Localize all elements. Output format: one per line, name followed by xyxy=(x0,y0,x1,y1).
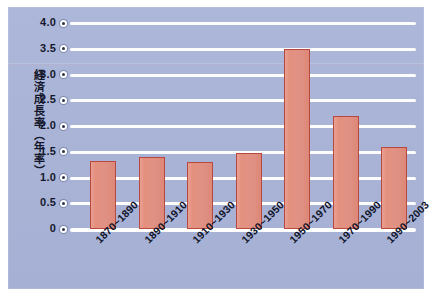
y-axis-tick-label: 4.0 xyxy=(40,16,56,28)
y-axis-tick-marker xyxy=(60,45,67,52)
y-axis-tick-label: 2.5 xyxy=(40,93,56,105)
plot-area xyxy=(70,23,416,229)
y-axis-tick-marker xyxy=(60,71,67,78)
bar xyxy=(284,49,310,229)
gridline xyxy=(70,74,416,77)
y-axis-tick-marker xyxy=(60,226,67,233)
y-axis-tick-label: 3.0 xyxy=(40,68,56,80)
gridline xyxy=(70,125,416,128)
y-axis-tick-label: 3.5 xyxy=(40,42,56,54)
y-axis-tick-marker xyxy=(60,200,67,207)
y-axis-tick-label: 2.0 xyxy=(40,119,56,131)
y-axis-tick-marker xyxy=(60,174,67,181)
y-axis-tick-label: 1.0 xyxy=(40,171,56,183)
chart-figure: 経済成長率（年率） 4.03.53.02.52.01.51.00.50 1870… xyxy=(0,0,431,300)
chart-panel: 経済成長率（年率） 4.03.53.02.52.01.51.00.50 1870… xyxy=(8,7,424,289)
y-axis-tick-label: 0 xyxy=(50,222,56,234)
y-axis-tick-marker xyxy=(60,20,67,27)
gridline xyxy=(70,22,416,25)
gridline xyxy=(70,48,416,51)
y-axis-tick-marker xyxy=(60,123,67,130)
y-axis-tick-label: 1.5 xyxy=(40,145,56,157)
y-axis-tick-marker xyxy=(60,148,67,155)
bar xyxy=(333,116,359,229)
gridline xyxy=(70,99,416,102)
y-axis-tick-label: 0.5 xyxy=(40,196,56,208)
y-axis-tick-marker xyxy=(60,97,67,104)
